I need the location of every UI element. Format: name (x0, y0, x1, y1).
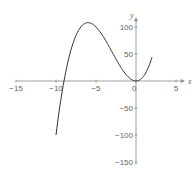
x-tick-label: −15 (9, 84, 23, 93)
x-axis-label: x (187, 77, 192, 86)
ticks: −15−10−50510050−50−100−150 (9, 23, 179, 167)
axes: xy (16, 11, 192, 165)
x-tick-label: 5 (174, 84, 179, 93)
y-axis-label: y (129, 11, 134, 20)
y-tick-label: 100 (120, 23, 134, 32)
y-tick-label: −50 (119, 104, 133, 113)
chart: xy −15−10−50510050−50−100−150 (0, 0, 194, 187)
x-axis-arrow-icon (181, 79, 185, 83)
y-axis-arrow-icon (134, 17, 138, 21)
x-tick-label: −5 (91, 84, 101, 93)
x-tick-label: −10 (49, 84, 63, 93)
curve-line (56, 23, 152, 135)
y-tick-label: 50 (124, 50, 133, 59)
y-tick-label: −100 (115, 131, 134, 140)
y-tick-label: −150 (115, 158, 134, 167)
x-tick-label: 0 (132, 84, 137, 93)
